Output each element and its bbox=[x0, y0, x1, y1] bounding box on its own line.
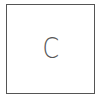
card-letter: C bbox=[42, 35, 59, 63]
letter-card[interactable]: C bbox=[6, 4, 95, 94]
